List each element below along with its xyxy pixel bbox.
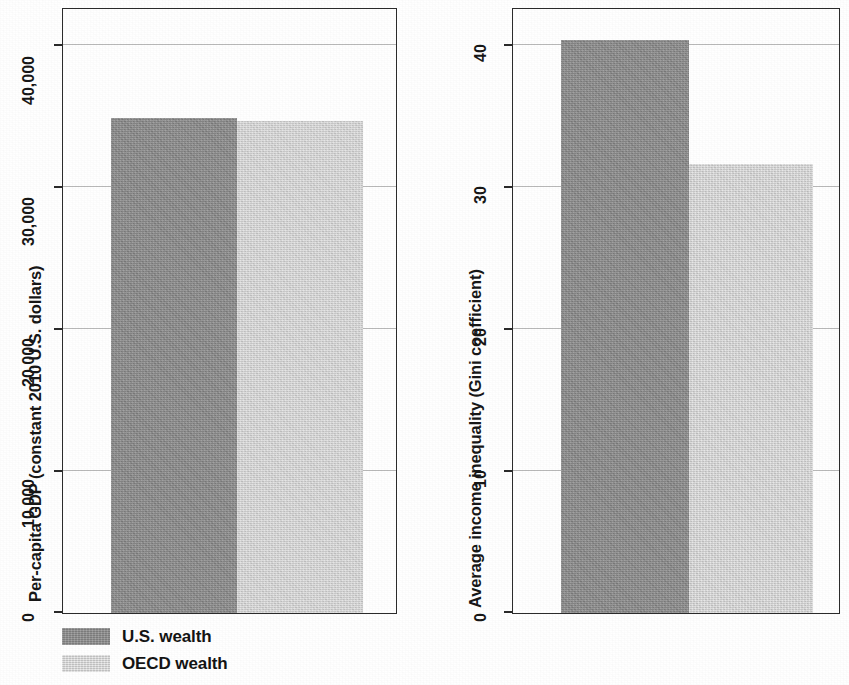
bar-oecd-wealth bbox=[237, 121, 363, 613]
y-tick-label-right-30: 30 bbox=[472, 186, 490, 204]
bar-us-wealth bbox=[111, 118, 237, 613]
y-tick-label-left-0: 0 bbox=[20, 613, 38, 622]
y-axis-title-right: Average income inequality (Gini coeffici… bbox=[466, 269, 485, 608]
legend-label-us-wealth: U.S. wealth bbox=[122, 627, 212, 647]
y-tick-label-left-30000: 30,000 bbox=[20, 197, 38, 246]
bar-oecd-inequality bbox=[689, 164, 813, 613]
plot-area-wealth bbox=[62, 8, 397, 614]
legend-item-oecd-wealth: OECD wealth bbox=[62, 650, 228, 677]
legend-wealth: U.S. wealth OECD wealth bbox=[62, 623, 228, 677]
legend-swatch-oecd-wealth bbox=[62, 655, 110, 672]
legend-swatch-us-wealth bbox=[62, 628, 110, 645]
bar-us-inequality bbox=[561, 40, 689, 613]
y-tick-label-right-0: 0 bbox=[472, 613, 490, 622]
y-tick-label-left-40000: 40,000 bbox=[20, 56, 38, 105]
gridline-left-40000 bbox=[63, 44, 396, 45]
y-tick-label-left-20000: 20,000 bbox=[20, 338, 38, 387]
legend-label-oecd-wealth: OECD wealth bbox=[122, 654, 228, 674]
chart-panel-inequality: Average income inequality (Gini coeffici… bbox=[440, 0, 849, 685]
y-tick-label-right-10: 10 bbox=[472, 470, 490, 488]
y-axis-title-left: Per-capita GDP (constant 2010 U.S. dolla… bbox=[26, 265, 45, 602]
y-tick-label-right-40: 40 bbox=[472, 44, 490, 62]
plot-area-inequality bbox=[512, 8, 840, 614]
legend-item-us-wealth: U.S. wealth bbox=[62, 623, 228, 650]
chart-figure: Per-capita GDP (constant 2010 U.S. dolla… bbox=[0, 0, 849, 685]
y-tick-label-left-10000: 10,000 bbox=[20, 479, 38, 528]
chart-panel-wealth: Per-capita GDP (constant 2010 U.S. dolla… bbox=[0, 0, 440, 685]
y-tick-label-right-20: 20 bbox=[472, 328, 490, 346]
